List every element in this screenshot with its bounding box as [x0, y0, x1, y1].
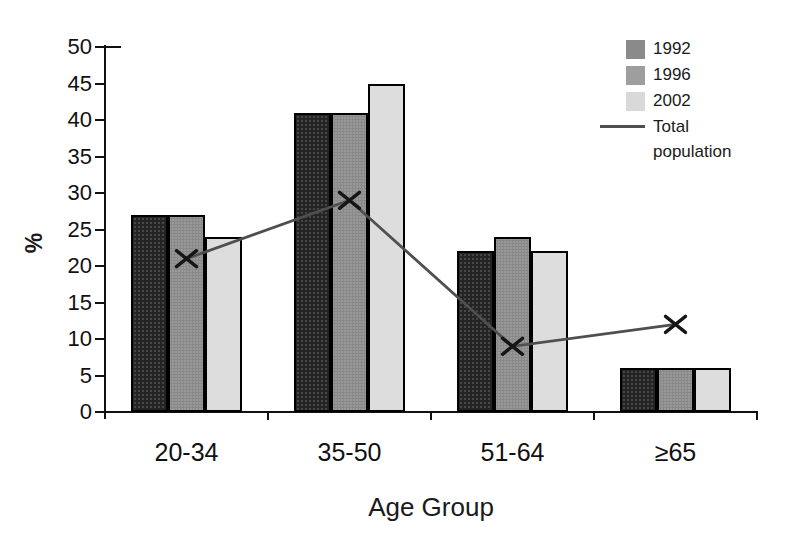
bar-2002-20-34 — [205, 237, 242, 412]
y-tick — [95, 265, 106, 267]
y-tick-label: 40 — [0, 109, 92, 131]
x-tick-label: ≥65 — [594, 438, 757, 467]
bar-1996-20-34 — [168, 215, 205, 412]
x-tick — [593, 412, 595, 420]
y-tick — [95, 375, 106, 377]
y-tick-label: 45 — [0, 73, 92, 95]
y-tick — [95, 411, 106, 413]
bar-2002-51-64 — [531, 251, 568, 412]
x-tick — [267, 412, 269, 420]
y-tick — [95, 229, 106, 231]
x-marker — [666, 316, 686, 332]
y-axis-line — [104, 45, 106, 419]
legend-item-2002: 2002 — [600, 88, 770, 114]
bar-1992-35-50 — [294, 113, 331, 412]
legend-swatch-1996 — [626, 66, 645, 85]
y-tick-label: 35 — [0, 146, 92, 168]
y-tick — [95, 302, 106, 304]
y-tick-label: 5 — [0, 365, 92, 387]
y-tick — [95, 338, 106, 340]
y-tick — [95, 46, 106, 48]
legend-label-2002: 2002 — [653, 91, 691, 111]
legend-item-1996: 1996 — [600, 62, 770, 88]
legend-label-total-population: Total population — [653, 114, 753, 164]
y-tick-label: 15 — [0, 292, 92, 314]
y-tick-label: 20 — [0, 255, 92, 277]
x-tick-label: 20-34 — [105, 438, 268, 467]
y-tick — [95, 192, 106, 194]
y-tick-label: 30 — [0, 182, 92, 204]
legend-line-swatch — [600, 125, 645, 128]
bar-1992-20-34 — [131, 215, 168, 412]
bar-2002-35-50 — [368, 84, 405, 413]
legend-item-1992: 1992 — [600, 36, 770, 62]
chart-canvas: % Age Group 05101520253035404550 20-3435… — [0, 0, 785, 535]
y-tick — [95, 156, 106, 158]
x-tick-label: 35-50 — [268, 438, 431, 467]
legend-item-total-population: Total population — [600, 114, 770, 164]
y-tick — [95, 119, 106, 121]
total-population-polyline — [187, 200, 676, 346]
y-tick-label: 0 — [0, 401, 92, 423]
y-tick — [95, 83, 106, 85]
legend-swatch-2002 — [626, 92, 645, 111]
legend-label-1996: 1996 — [653, 65, 691, 85]
bar-1992-≥65 — [620, 368, 657, 412]
bar-1996-≥65 — [657, 368, 694, 412]
x-tick-label: 51-64 — [431, 438, 594, 467]
legend: 1992 1996 2002 Total population — [600, 36, 770, 164]
x-tick — [430, 412, 432, 420]
bar-1992-51-64 — [457, 251, 494, 412]
x-axis-title: Age Group — [331, 492, 531, 523]
y-tick-label: 25 — [0, 219, 92, 241]
y-tick-label: 10 — [0, 328, 92, 350]
legend-label-1992: 1992 — [653, 39, 691, 59]
bar-2002-≥65 — [694, 368, 731, 412]
bar-1996-51-64 — [494, 237, 531, 412]
y-axis-top-tick — [105, 46, 121, 48]
y-tick-label: 50 — [0, 36, 92, 58]
x-tick — [756, 412, 758, 420]
bar-1996-35-50 — [331, 113, 368, 412]
legend-swatch-1992 — [626, 40, 645, 59]
